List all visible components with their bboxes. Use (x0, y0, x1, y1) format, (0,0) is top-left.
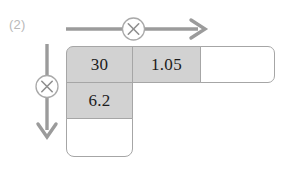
multiplication-grid: 30 1.05 6.2 (66, 46, 275, 157)
multiply-stroke-a-horizontal (128, 24, 138, 34)
cell-multiplicand[interactable]: 30 (66, 46, 133, 83)
cell-multiplier-vertical[interactable]: 6.2 (66, 82, 133, 119)
grid-row: 30 1.05 (66, 46, 275, 83)
grid-row: 6.2 (66, 82, 133, 119)
multiply-circle-icon-horizontal (123, 18, 145, 40)
problem-number-label: (2) (9, 18, 26, 31)
multiply-circle-icon-vertical (36, 76, 58, 98)
vertical-arrow-head (38, 124, 56, 137)
cell-multiplier[interactable]: 1.05 (132, 46, 201, 83)
cell-answer-row1[interactable] (200, 46, 275, 83)
cell-answer-column1[interactable] (66, 118, 133, 157)
worksheet-canvas: (2) 30 1.05 6.2 (0, 0, 288, 173)
grid-row (66, 118, 133, 157)
multiply-stroke-b-horizontal (128, 24, 138, 34)
multiply-stroke-b-vertical (42, 81, 52, 91)
horizontal-arrow-head (191, 20, 205, 38)
multiply-stroke-a-vertical (42, 81, 52, 91)
